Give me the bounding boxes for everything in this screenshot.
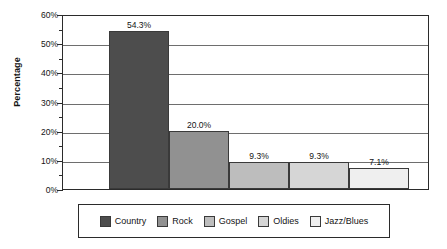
y-axis-major-tick — [57, 190, 63, 191]
bar-value-label: 54.3% — [109, 21, 169, 30]
y-axis-tick-label: 10% — [28, 157, 58, 166]
bar — [169, 131, 229, 189]
bar-value-label: 20.0% — [169, 121, 229, 130]
bar-chart: Percentage 0%10%20%30%40%50%60% 54.3%20.… — [0, 0, 447, 249]
y-axis-tick-label: 50% — [28, 40, 58, 49]
plot-area: 54.3%20.0%9.3%9.3%7.1% — [62, 15, 429, 190]
legend-label: Rock — [172, 217, 193, 226]
y-axis-tick-label: 30% — [28, 99, 58, 108]
legend-label: Country — [115, 217, 147, 226]
legend-swatch-icon — [157, 216, 168, 227]
legend-label: Jazz/Blues — [325, 217, 369, 226]
legend-item[interactable]: Gospel — [204, 216, 248, 227]
y-axis-title: Percentage — [12, 42, 22, 122]
legend-swatch-icon — [100, 216, 111, 227]
legend-item[interactable]: Country — [100, 216, 147, 227]
bar-value-label: 9.3% — [229, 152, 289, 161]
legend-item[interactable]: Rock — [157, 216, 193, 227]
chart-legend: CountryRockGospelOldiesJazz/Blues — [78, 204, 390, 238]
y-axis-tick-label: 60% — [28, 11, 58, 20]
bar — [289, 162, 349, 189]
bar-series: 54.3%20.0%9.3%9.3%7.1% — [63, 16, 428, 189]
bar — [349, 168, 409, 189]
legend-swatch-icon — [310, 216, 321, 227]
y-axis-tick-label: 20% — [28, 128, 58, 137]
bar — [229, 162, 289, 189]
y-axis-tick-labels: 0%10%20%30%40%50%60% — [26, 0, 58, 249]
legend-swatch-icon — [204, 216, 215, 227]
legend-swatch-icon — [258, 216, 269, 227]
bar — [109, 31, 169, 189]
legend-item[interactable]: Oldies — [258, 216, 299, 227]
bar-value-label: 7.1% — [349, 158, 409, 167]
legend-label: Oldies — [273, 217, 299, 226]
legend-item[interactable]: Jazz/Blues — [310, 216, 369, 227]
bar-value-label: 9.3% — [289, 152, 349, 161]
legend-label: Gospel — [219, 217, 248, 226]
y-axis-tick-label: 0% — [28, 186, 58, 195]
y-axis-tick-label: 40% — [28, 69, 58, 78]
